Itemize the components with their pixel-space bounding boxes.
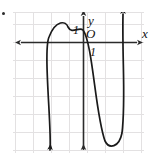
graph-figure: y x O 1 1 [0,0,158,167]
tick-label-one-upper: 1 [73,24,79,36]
axes [21,16,137,150]
origin-label: O [86,27,95,40]
x-axis-label: x [142,27,148,40]
list-bullet-icon [2,12,5,15]
tick-label-one-lower: 1 [90,46,96,58]
